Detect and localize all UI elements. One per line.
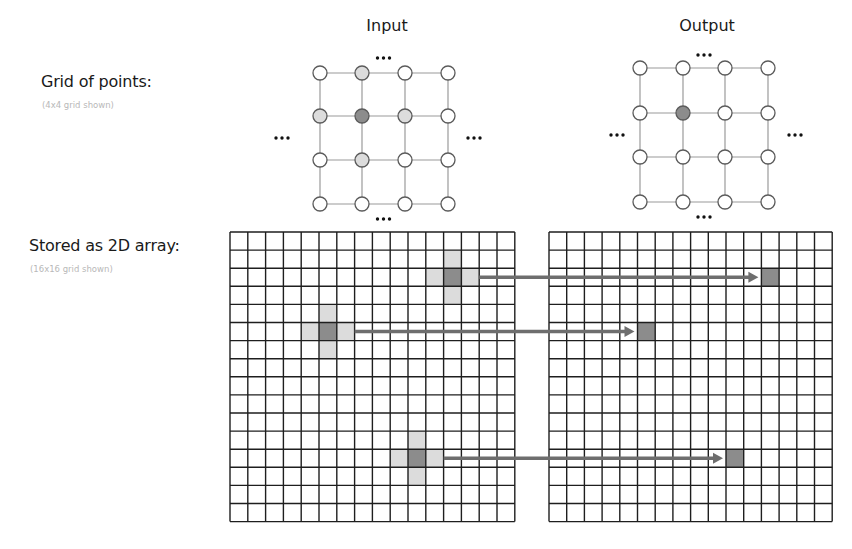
- output-array-grid: [549, 232, 832, 522]
- grid-point: [633, 150, 647, 164]
- neighbor-cell: [444, 286, 462, 304]
- ellipsis-dot: [466, 136, 469, 139]
- neighbor-cell: [408, 431, 426, 449]
- grid-point: [718, 106, 732, 120]
- grid-point: [313, 66, 327, 80]
- grid-point: [398, 109, 412, 123]
- grid-point: [398, 66, 412, 80]
- ellipsis-dot: [799, 133, 802, 136]
- neighbor-cell: [426, 268, 444, 286]
- ellipsis-dot: [388, 56, 391, 59]
- arrowhead-icon: [713, 453, 723, 464]
- grid-point: [441, 153, 455, 167]
- grid-point: [633, 106, 647, 120]
- target-cell: [319, 323, 337, 341]
- grid-point: [676, 61, 690, 75]
- ellipsis-dot: [702, 53, 705, 56]
- input-array-grid: [230, 232, 515, 522]
- ellipsis-dot: [609, 133, 612, 136]
- input-point-grid: [313, 66, 455, 211]
- neighbor-cell: [408, 467, 426, 485]
- target-cell: [638, 323, 656, 341]
- ellipsis-dot: [376, 56, 379, 59]
- output-point-grid: [633, 61, 775, 209]
- grid-point: [761, 195, 775, 209]
- arrowhead-icon: [748, 272, 758, 283]
- ellipsis-dot: [388, 217, 391, 220]
- grid-point: [441, 197, 455, 211]
- neighbor-cell: [301, 323, 319, 341]
- grid-point: [633, 61, 647, 75]
- grid-point: [313, 153, 327, 167]
- grid-point: [355, 153, 369, 167]
- grid-point: [718, 195, 732, 209]
- ellipsis-dot: [615, 133, 618, 136]
- ellipsis-dot: [286, 136, 289, 139]
- target-cell: [444, 268, 462, 286]
- grid-point: [676, 106, 690, 120]
- ellipsis-dot: [478, 136, 481, 139]
- grid-point: [761, 106, 775, 120]
- grid-point: [441, 66, 455, 80]
- ellipsis-dot: [793, 133, 796, 136]
- grid-point: [718, 61, 732, 75]
- target-cell: [761, 268, 779, 286]
- grid-point: [313, 197, 327, 211]
- grid-point: [718, 150, 732, 164]
- grid-point: [761, 61, 775, 75]
- ellipsis-dot: [702, 215, 705, 218]
- neighbor-cell: [426, 449, 444, 467]
- grid-point: [676, 195, 690, 209]
- ellipsis-dot: [696, 53, 699, 56]
- ellipsis-dot: [382, 217, 385, 220]
- grid-point: [398, 197, 412, 211]
- diagram-canvas: [0, 0, 852, 549]
- grid-point: [441, 109, 455, 123]
- neighbor-cell: [337, 323, 355, 341]
- ellipsis-dot: [696, 215, 699, 218]
- ellipsis-dot: [274, 136, 277, 139]
- neighbor-cell: [319, 341, 337, 359]
- grid-point: [398, 153, 412, 167]
- ellipsis-dot: [280, 136, 283, 139]
- neighbor-cell: [444, 250, 462, 268]
- target-cell: [408, 449, 426, 467]
- ellipsis-dot: [708, 53, 711, 56]
- arrowhead-icon: [625, 326, 635, 337]
- grid-point: [633, 195, 647, 209]
- neighbor-cell: [319, 304, 337, 322]
- ellipsis-dot: [708, 215, 711, 218]
- grid-point: [355, 66, 369, 80]
- target-cell: [726, 449, 744, 467]
- neighbor-cell: [390, 449, 408, 467]
- grid-point: [676, 150, 690, 164]
- ellipsis-dot: [376, 217, 379, 220]
- grid-point: [313, 109, 327, 123]
- ellipsis-dot: [621, 133, 624, 136]
- grid-point: [355, 197, 369, 211]
- ellipsis-dot: [472, 136, 475, 139]
- ellipsis-dot: [382, 56, 385, 59]
- ellipsis-dot: [787, 133, 790, 136]
- grid-point: [761, 150, 775, 164]
- neighbor-cell: [461, 268, 479, 286]
- grid-point: [355, 109, 369, 123]
